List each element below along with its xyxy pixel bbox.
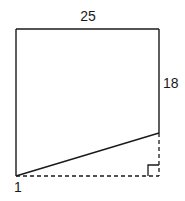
label-top-length: 25: [80, 8, 96, 24]
slanted-bottom-edge: [16, 133, 159, 176]
label-right-length: 18: [163, 75, 179, 91]
label-bottom-left: 1: [14, 179, 22, 195]
right-angle-marker: [148, 165, 159, 176]
geometry-diagram: 25 18 1: [0, 0, 185, 201]
